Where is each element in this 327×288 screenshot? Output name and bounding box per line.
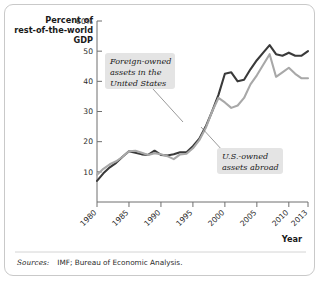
annotation-foreign-owned-line-1: Foreign-owned [109,56,171,66]
source-line: Sources: IMF; Bureau of Economic Analysi… [17,250,182,269]
x-tick-label: 1980 [78,208,98,228]
x-axis-title: Year [281,234,303,244]
y-axis-title-line-3: GDP [73,35,93,45]
annotation-foreign-owned-line-2: assets in the [110,67,162,77]
chart-canvas: Percent of rest-of-the-world GDP 1020304… [5,5,315,276]
x-tick-label: 2005 [238,208,258,228]
y-tick-label: 60% [76,17,93,26]
x-axis-ticks: 19801985199019952000200520102013 [78,202,309,228]
foreign-owned-leader-line [153,89,183,122]
chart-figure: Percent of rest-of-the-world GDP 1020304… [4,4,315,276]
x-tick-label: 2010 [270,208,290,228]
x-tick-label: 1990 [142,208,162,228]
y-tick-label: 10 [83,168,93,177]
y-tick-label: 40 [83,77,93,86]
annotation-us-owned-line-1: U.S.-owned [222,151,268,161]
us-owned-leader-line [201,127,223,151]
x-tick-label: 2000 [206,208,226,228]
x-tick-label: 1985 [110,208,130,228]
y-tick-label: 50 [83,47,93,56]
x-tick-label: 2013 [289,208,309,228]
source-text: IMF; Bureau of Economic Analysis. [57,258,182,267]
annotation-us-owned-line-2: assets abroad [222,162,279,172]
annotation-foreign-owned: Foreign-owned assets in the United State… [105,53,175,89]
y-tick-label: 20 [83,137,93,146]
source-label: Sources: [17,258,49,267]
y-tick-label: 30 [83,107,93,116]
annotation-us-owned: U.S.-owned assets abroad [217,148,283,174]
x-tick-label: 1995 [174,208,194,228]
annotation-foreign-owned-line-3: United States [110,78,166,88]
y-axis-title-line-2: rest-of-the-world [14,25,93,35]
